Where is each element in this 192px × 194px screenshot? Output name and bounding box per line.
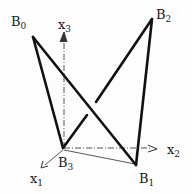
label-b2: B2 bbox=[156, 8, 171, 24]
x1-arrow-icon bbox=[41, 161, 48, 168]
label-b0: B0 bbox=[11, 15, 26, 31]
edge-b2-b3-lower bbox=[63, 115, 87, 148]
edge-b0-b1 bbox=[33, 37, 136, 165]
label-x3: x3 bbox=[58, 18, 71, 34]
diagram-svg bbox=[0, 0, 192, 194]
axes bbox=[41, 32, 157, 168]
label-b3: B3 bbox=[58, 156, 73, 172]
label-x2: x2 bbox=[167, 143, 180, 159]
edges bbox=[33, 19, 152, 165]
diagram-canvas: B0 B2 B3 B1 x3 x2 x1 bbox=[0, 0, 192, 194]
label-b1: B1 bbox=[139, 172, 154, 188]
label-x1: x1 bbox=[30, 172, 43, 188]
